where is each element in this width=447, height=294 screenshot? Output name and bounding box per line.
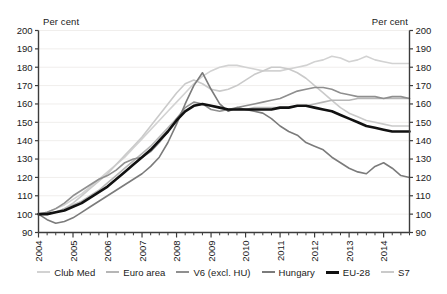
svg-text:190: 190 [416, 43, 432, 54]
svg-text:90: 90 [22, 227, 33, 238]
data-series-group [39, 56, 410, 223]
y-axis-left-ticks: 90100110120130140150160170180190200 [17, 25, 39, 238]
legend-swatch-v6-excl-hu [176, 271, 189, 273]
chart-container: Per cent Per cent 9010011012013014015016… [0, 0, 447, 294]
svg-text:170: 170 [416, 80, 432, 91]
legend-label-v6-excl-hu: V6 (excl. HU) [193, 267, 250, 278]
svg-text:100: 100 [416, 209, 432, 220]
legend-item-eu-28[interactable]: EU-28 [326, 267, 370, 278]
legend-item-hungary[interactable]: Hungary [262, 267, 315, 278]
series-line-club-med [39, 56, 410, 214]
svg-text:150: 150 [17, 117, 33, 128]
legend-item-euro-area[interactable]: Euro area [106, 267, 165, 278]
svg-text:2004: 2004 [33, 241, 44, 262]
svg-text:200: 200 [17, 25, 33, 36]
svg-text:180: 180 [416, 62, 432, 73]
legend-item-v6-excl-hu[interactable]: V6 (excl. HU) [176, 267, 250, 278]
legend-label-euro-area: Euro area [123, 267, 165, 278]
legend-swatch-club-med [37, 271, 50, 273]
legend-swatch-hungary [262, 271, 275, 273]
legend-label-eu-28: EU-28 [343, 267, 370, 278]
svg-text:140: 140 [17, 135, 33, 146]
svg-text:140: 140 [416, 135, 432, 146]
y-axis-right-ticks: 90100110120130140150160170180190200 [410, 25, 432, 238]
svg-text:120: 120 [17, 172, 33, 183]
legend-swatch-s7 [381, 271, 394, 273]
svg-text:160: 160 [416, 98, 432, 109]
svg-text:2013: 2013 [344, 241, 355, 262]
svg-text:130: 130 [17, 153, 33, 164]
svg-text:2009: 2009 [206, 241, 217, 262]
chart-legend: Club MedEuro areaV6 (excl. HU)HungaryEU-… [0, 262, 447, 282]
legend-swatch-eu-28 [326, 271, 339, 274]
svg-text:200: 200 [416, 25, 432, 36]
svg-text:90: 90 [416, 227, 427, 238]
svg-text:110: 110 [17, 190, 32, 201]
x-axis-ticks: 2004200520062007200820092010201120122013… [33, 233, 409, 262]
svg-text:2007: 2007 [137, 241, 148, 262]
svg-text:170: 170 [17, 80, 33, 91]
svg-text:180: 180 [17, 62, 33, 73]
svg-text:160: 160 [17, 98, 33, 109]
gridlines [39, 31, 410, 215]
svg-text:2012: 2012 [309, 241, 320, 262]
svg-text:190: 190 [17, 43, 33, 54]
svg-text:130: 130 [416, 153, 432, 164]
line-chart-plot: 90100110120130140150160170180190200 9010… [0, 0, 447, 294]
svg-text:100: 100 [17, 209, 33, 220]
svg-text:120: 120 [416, 172, 432, 183]
svg-text:2014: 2014 [378, 241, 389, 262]
legend-item-club-med[interactable]: Club Med [37, 267, 95, 278]
svg-text:2008: 2008 [171, 241, 182, 262]
svg-text:2011: 2011 [275, 241, 286, 261]
svg-text:2006: 2006 [102, 241, 113, 262]
legend-swatch-euro-area [106, 271, 119, 273]
svg-text:2005: 2005 [68, 241, 79, 262]
legend-label-hungary: Hungary [279, 267, 315, 278]
svg-text:2010: 2010 [240, 241, 251, 262]
legend-item-s7[interactable]: S7 [381, 267, 410, 278]
svg-text:110: 110 [416, 190, 431, 201]
legend-label-club-med: Club Med [54, 267, 95, 278]
legend-label-s7: S7 [398, 267, 410, 278]
svg-text:150: 150 [416, 117, 432, 128]
